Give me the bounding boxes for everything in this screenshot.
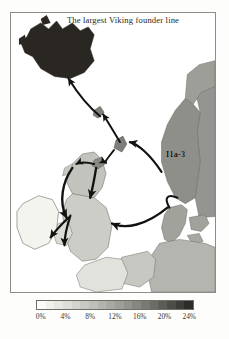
legend-swatch-10 [124, 301, 133, 309]
legend-swatch-5 [80, 301, 89, 309]
legend-swatch-8 [106, 301, 115, 309]
legend-swatch-6 [89, 301, 98, 309]
legend-swatch-16 [176, 301, 185, 309]
haplogroup-label: I1a-3 [166, 150, 185, 159]
legend-swatch-4 [72, 301, 81, 309]
legend-swatch-12 [141, 301, 150, 309]
legend-swatch-0 [37, 301, 46, 309]
legend-swatch-9 [115, 301, 124, 309]
legend-swatch-2 [54, 301, 63, 309]
legend-swatch-11 [132, 301, 141, 309]
legend-swatch-1 [46, 301, 55, 309]
legend-swatch-15 [167, 301, 176, 309]
legend-swatch-13 [150, 301, 159, 309]
legend-tick-20pct: 20% [158, 312, 172, 321]
legend-swatch-14 [158, 301, 167, 309]
legend-tick-24pct: 24% [182, 312, 196, 321]
map-title: The largest Viking founder line [48, 15, 198, 25]
legend-swatch-17 [184, 301, 193, 309]
legend: 0%4%8%12%16%20%24% [36, 300, 194, 324]
legend-swatch-7 [98, 301, 107, 309]
legend-tick-12pct: 12% [108, 312, 122, 321]
legend-tick-0pct: 0% [36, 312, 46, 321]
legend-tick-16pct: 16% [133, 312, 147, 321]
legend-color-bar [36, 300, 194, 310]
legend-swatch-3 [63, 301, 72, 309]
region-northern-germany [148, 239, 215, 292]
legend-tick-4pct: 4% [61, 312, 71, 321]
legend-tick-labels: 0%4%8%12%16%20%24% [36, 312, 194, 324]
figure-viking-founder-line-map: The largest Viking founder line I1a-3 0%… [0, 0, 229, 339]
legend-tick-8pct: 8% [85, 312, 95, 321]
